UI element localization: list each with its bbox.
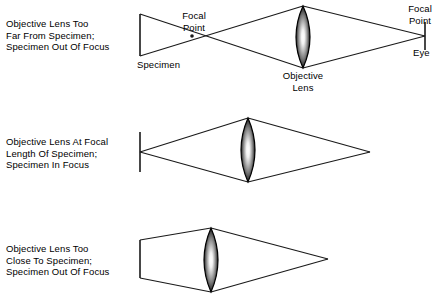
label-focal-point-right-line-1: Focal [399,3,440,15]
caption-top-line-3: Specimen Out Of Focus [6,41,109,53]
caption-top-line-1: Objective Lens Too [6,18,109,30]
objective-lens-bottom [204,228,218,292]
ray-bot-lower-out [211,259,328,292]
caption-bottom-line-2: Close To Specimen; [6,255,109,267]
label-focal-point-left: Focal Point [168,10,220,33]
label-focal-point-left-line-2: Point [168,22,220,34]
objective-lens-middle [241,118,255,182]
ray-top-lower-in [140,6,303,56]
label-focal-point-right-line-2: Point [399,15,440,27]
ray-mid-upper-out [248,118,370,152]
label-eye: Eye [413,47,430,59]
caption-middle-line-1: Objective Lens At Focal [6,136,108,148]
label-objective-lens-line-1: Objective [273,70,333,82]
label-specimen-top: Specimen [137,59,180,71]
focal-point-dot-left [190,34,194,38]
label-objective-lens-line-2: Lens [273,82,333,94]
ray-bot-upper-out [211,228,328,259]
label-focal-point-left-line-1: Focal [168,10,220,22]
caption-middle-line-2: Length Of Specimen; [6,148,108,160]
label-focal-point-right: Focal Point [399,3,440,26]
caption-bottom-line-3: Specimen Out Of Focus [6,266,109,278]
optics-diagram: Objective Lens Too Far From Specimen; Sp… [0,0,440,306]
ray-mid-lower-out [248,152,370,182]
ray-bot-lower-in [140,278,211,292]
caption-middle: Objective Lens At Focal Length Of Specim… [6,136,108,171]
ray-top-upper-out [303,36,425,68]
caption-bottom-line-1: Objective Lens Too [6,243,109,255]
ray-mid-lower-in [140,152,248,182]
panel-bottom-rays [140,228,328,292]
caption-top-line-2: Far From Specimen; [6,30,109,42]
panel-middle-rays [140,118,370,182]
caption-top: Objective Lens Too Far From Specimen; Sp… [6,18,109,53]
objective-lens-top [296,6,310,68]
ray-mid-upper-in [140,118,248,152]
label-objective-lens: Objective Lens [273,70,333,93]
ray-bot-upper-in [140,228,211,240]
caption-bottom: Objective Lens Too Close To Specimen; Sp… [6,243,109,278]
caption-middle-line-3: Specimen In Focus [6,159,108,171]
